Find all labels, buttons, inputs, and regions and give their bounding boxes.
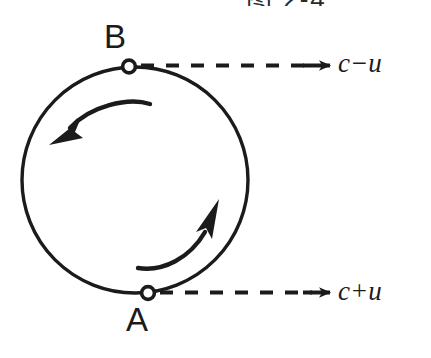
flow-label-c-minus-u: c−u bbox=[338, 50, 382, 77]
node-marker-b bbox=[123, 60, 136, 73]
curved-arrow-upper bbox=[49, 102, 150, 145]
curved-arrow-lower bbox=[138, 199, 219, 269]
node-label-b: B bbox=[104, 20, 126, 53]
figure-container: 图 2-4 bbox=[0, 0, 431, 358]
node-label-a: A bbox=[126, 303, 148, 336]
flow-label-c-plus-u: c+u bbox=[338, 278, 382, 305]
node-marker-a bbox=[142, 287, 155, 300]
